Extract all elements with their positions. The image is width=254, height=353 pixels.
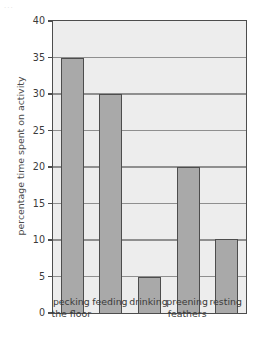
y-tick-mark bbox=[48, 93, 53, 94]
bar bbox=[99, 94, 122, 313]
y-tick-mark bbox=[48, 20, 53, 21]
x-tick-label-line: resting bbox=[202, 296, 249, 308]
y-tick-mark bbox=[48, 239, 53, 240]
y-tick-mark bbox=[48, 276, 53, 277]
y-tick-label: 25 bbox=[33, 126, 45, 136]
y-tick-label: 10 bbox=[33, 235, 45, 245]
x-tick-label: resting bbox=[202, 296, 249, 308]
y-tick-label: 5 bbox=[39, 272, 45, 282]
y-tick-label: 35 bbox=[33, 53, 45, 63]
y-tick-label: 40 bbox=[33, 16, 45, 26]
plot-area: 0510152025303540 bbox=[52, 20, 247, 314]
bar bbox=[177, 167, 200, 313]
y-tick-mark bbox=[48, 130, 53, 131]
x-tick-label-line: feathers bbox=[164, 308, 211, 320]
bar-chart-figure: ... percentage time spent on activity 05… bbox=[0, 0, 254, 353]
y-tick-label: 20 bbox=[33, 162, 45, 172]
y-tick-mark bbox=[48, 166, 53, 167]
bar bbox=[61, 58, 84, 314]
y-tick-mark bbox=[48, 203, 53, 204]
y-tick-label: 0 bbox=[39, 308, 45, 318]
y-tick-mark bbox=[48, 57, 53, 58]
y-tick-label: 15 bbox=[33, 199, 45, 209]
bar bbox=[138, 277, 161, 314]
x-tick-label-line: the floor bbox=[48, 308, 95, 320]
y-tick-label: 30 bbox=[33, 89, 45, 99]
y-axis-title: percentage time spent on activity bbox=[14, 0, 28, 314]
